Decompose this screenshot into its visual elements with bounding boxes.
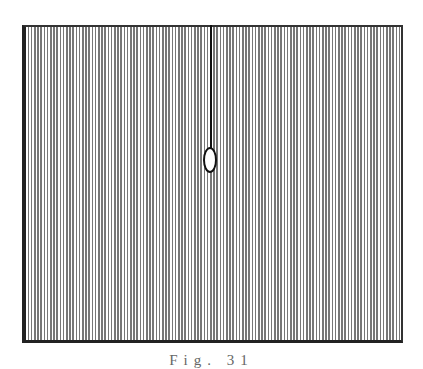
figure-caption: Fig. 31: [0, 352, 423, 369]
hatched-frame: [22, 25, 403, 343]
pendulum-bob: [203, 147, 217, 173]
pendulum-rod: [210, 25, 212, 149]
